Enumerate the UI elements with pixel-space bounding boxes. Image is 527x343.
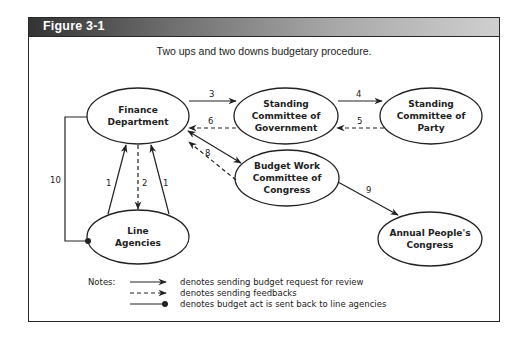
node-line-agencies: Line Agencies [87,210,189,264]
edge-9-budget-to-congress: 9 [338,182,398,215]
edge-6-government-to-finance: 6 [189,116,236,128]
svg-text:3: 3 [209,89,214,99]
svg-text:9: 9 [366,185,371,195]
edge-10-finance-to-line: 10 [50,117,91,244]
svg-text:Committee of: Committee of [253,173,322,183]
svg-text:10: 10 [50,175,61,185]
svg-text:Annual People's: Annual People's [389,228,470,238]
svg-text:denotes sending budget request: denotes sending budget request for revie… [180,277,364,287]
svg-text:Notes:: Notes: [88,277,115,287]
edge-8-budget-to-finance: 8 [189,142,236,180]
legend-solid-arrow: denotes sending budget request for revie… [130,277,364,287]
svg-text:Line: Line [127,226,148,236]
svg-text:Committee of: Committee of [252,111,321,121]
svg-text:4: 4 [356,89,361,99]
node-budget-work-committee: Budget Work Committee of Congress [235,150,339,206]
svg-text:denotes budget act is sent bac: denotes budget act is sent back to line … [180,299,387,309]
svg-text:2: 2 [142,178,147,188]
svg-text:8: 8 [205,148,210,158]
svg-text:1: 1 [163,178,168,188]
node-finance-department: Finance Department [87,88,189,144]
svg-text:Standing: Standing [263,99,309,109]
svg-text:Department: Department [107,117,169,127]
node-standing-committee-party: Standing Committee of Party [380,88,482,144]
svg-text:Party: Party [417,123,444,133]
flow-diagram: Finance Department Standing Committee of… [0,0,527,343]
legend-dashed-arrow: denotes sending feedbacks [130,288,297,298]
node-standing-committee-government: Standing Committee of Government [234,88,338,144]
edge-2-finance-to-line: 2 [138,145,147,209]
svg-text:Budget Work: Budget Work [254,161,321,171]
edge-1a-line-to-finance: 1 [106,145,126,214]
svg-text:Congress: Congress [264,185,311,195]
svg-text:Government: Government [255,123,318,133]
svg-text:Committee of: Committee of [397,111,466,121]
edge-4-government-to-party: 4 [338,89,382,101]
svg-text:denotes sending feedbacks: denotes sending feedbacks [180,288,297,298]
svg-text:Congress: Congress [407,240,454,250]
svg-text:Finance: Finance [118,105,158,115]
svg-text:6: 6 [208,116,213,126]
svg-text:1: 1 [106,178,111,188]
edge-1b-line-to-finance: 1 [151,145,169,214]
svg-text:5: 5 [357,116,362,126]
legend-solid-dot: denotes budget act is sent back to line … [130,299,387,309]
edge-5-party-to-government: 5 [337,116,384,128]
svg-text:Standing: Standing [408,99,454,109]
edge-3-finance-to-government: 3 [189,89,236,101]
node-annual-peoples-congress: Annual People's Congress [378,212,482,266]
legend: Notes: denotes sending budget request fo… [88,277,387,309]
svg-text:Agencies: Agencies [115,238,161,248]
